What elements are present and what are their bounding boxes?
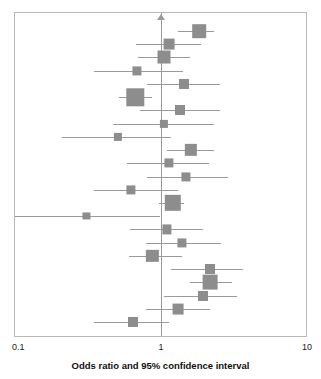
effect-estimate-marker — [193, 24, 207, 38]
confidence-interval-line — [94, 190, 178, 191]
effect-estimate-marker — [126, 88, 143, 105]
effect-estimate-marker — [198, 291, 208, 301]
x-axis-tick-label-right: 10 — [302, 342, 312, 352]
effect-estimate-marker — [165, 159, 174, 168]
effect-estimate-marker — [163, 225, 172, 234]
effect-estimate-marker — [83, 213, 90, 220]
x-axis-tick-label-left: 0.1 — [12, 342, 25, 352]
effect-estimate-marker — [173, 303, 184, 314]
effect-estimate-marker — [132, 66, 141, 75]
effect-estimate-marker — [205, 264, 215, 274]
plot-area — [14, 12, 307, 337]
data-layer — [15, 13, 306, 336]
effect-estimate-marker — [158, 51, 171, 64]
effect-estimate-marker — [177, 238, 186, 247]
effect-estimate-marker — [182, 172, 191, 181]
x-axis-tick-label-center: 1 — [158, 342, 163, 352]
effect-estimate-marker — [164, 39, 175, 50]
effect-estimate-marker — [146, 250, 158, 262]
effect-estimate-marker — [203, 275, 218, 290]
forest-plot-figure: 0.1 1 10 Odds ratio and 95% confidence i… — [0, 0, 321, 379]
effect-estimate-marker — [128, 317, 138, 327]
effect-estimate-marker — [160, 119, 168, 127]
x-axis-title: Odds ratio and 95% confidence interval — [0, 360, 321, 371]
effect-estimate-marker — [185, 144, 197, 156]
effect-estimate-marker — [175, 105, 185, 115]
effect-estimate-marker — [165, 195, 181, 211]
null-effect-triangle-icon — [157, 14, 165, 20]
effect-estimate-marker — [127, 185, 136, 194]
effect-estimate-marker — [179, 79, 189, 89]
effect-estimate-marker — [114, 133, 122, 141]
